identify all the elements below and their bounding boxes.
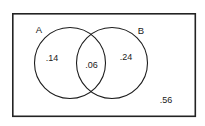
set-b-label: B (138, 25, 144, 36)
intersection-value: .06 (85, 60, 98, 70)
set-a-label: A (36, 24, 43, 35)
venn-diagram-figure: A B .14 .06 .24 .56 (0, 0, 205, 126)
set-b-only-value: .24 (120, 52, 133, 62)
outside-sets-value: .56 (160, 95, 173, 105)
set-a-only-value: .14 (46, 53, 59, 63)
